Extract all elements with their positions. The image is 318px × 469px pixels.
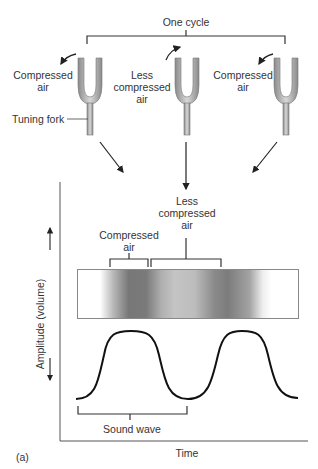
tuning-fork-middle xyxy=(175,58,199,135)
less-compressed-label-line2: compressed xyxy=(154,207,220,219)
fork-right-label-line2: air xyxy=(210,81,276,93)
tuning-fork-right xyxy=(274,58,298,135)
fork-right-label: Compressed air xyxy=(210,69,276,93)
fork-left-label-line2: air xyxy=(10,81,76,93)
less-compressed-label-line1: Less xyxy=(154,195,220,207)
sound-wave-curve xyxy=(76,331,298,399)
fork-left-label: Compressed air xyxy=(10,69,76,93)
less-compressed-label-line3: air xyxy=(154,219,220,231)
x-axis-label: Time xyxy=(167,447,207,459)
compressed-air-label: Compressed air xyxy=(96,229,162,253)
one-cycle-label: One cycle xyxy=(156,16,216,28)
sound-wave-bracket xyxy=(78,406,187,420)
cycle-bracket xyxy=(87,30,285,44)
arrow-right-icon xyxy=(253,142,277,172)
air-pressure-density-band xyxy=(77,269,299,319)
fork-middle-label: Less compressed air xyxy=(110,69,174,105)
panel-label: (a) xyxy=(16,451,29,463)
motion-arrow-left-icon xyxy=(61,54,76,64)
compressed-air-label-line1: Compressed xyxy=(96,229,162,241)
motion-arrow-right-icon xyxy=(259,54,273,64)
compressed-air-label-line2: air xyxy=(96,241,162,253)
less-compressed-label: Less compressed air xyxy=(154,195,220,231)
sound-wave-label: Sound wave xyxy=(102,423,162,435)
tuning-fork-left xyxy=(78,58,102,135)
tuning-fork-label: Tuning fork xyxy=(12,113,64,125)
y-axis-label: Amplitude (volume) xyxy=(34,244,46,404)
fork-right-label-line1: Compressed xyxy=(210,69,276,81)
fork-middle-label-line3: air xyxy=(110,93,174,105)
fork-left-label-line1: Compressed xyxy=(10,69,76,81)
fork-middle-label-line1: Less xyxy=(110,69,174,81)
compressed-bracket xyxy=(110,253,148,267)
fork-middle-label-line2: compressed xyxy=(110,81,174,93)
arrow-left-icon xyxy=(100,142,123,172)
